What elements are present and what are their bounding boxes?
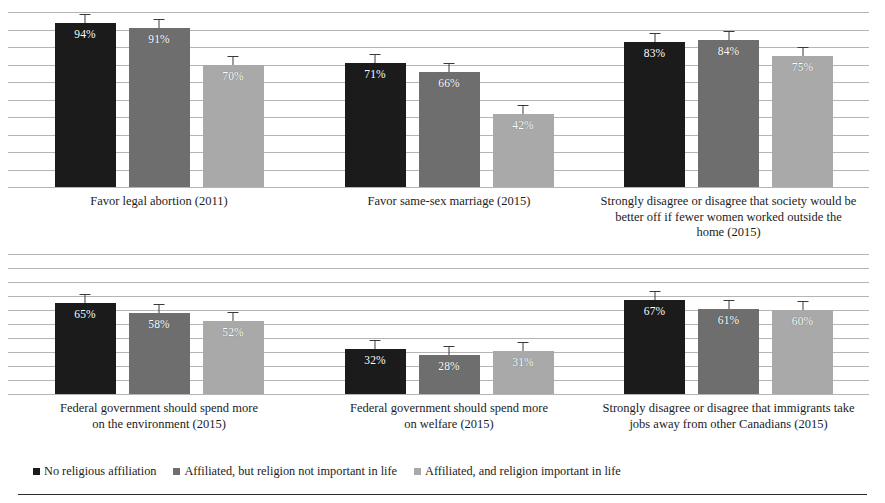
error-bar: [649, 291, 660, 300]
plot-area-spend-welfare: 32%28%31%: [310, 254, 588, 394]
gridline: [588, 394, 869, 395]
bar-slot: 66%: [412, 12, 486, 187]
bar: 71%: [345, 63, 406, 187]
legend-label: Affiliated, but religion not important i…: [184, 464, 397, 478]
legend-item: Affiliated, but religion not important i…: [173, 464, 397, 478]
bar-value-label: 32%: [345, 354, 406, 366]
error-bar-stem: [159, 19, 160, 28]
bar: 42%: [493, 114, 554, 188]
bar-group-same-sex-marriage: 71%66%42%: [310, 12, 588, 187]
error-bar: [444, 63, 455, 72]
legend-item: No religious affiliation: [33, 464, 156, 478]
bar-slot: 75%: [766, 12, 840, 187]
error-bar: [228, 312, 239, 321]
bar: 94%: [55, 23, 116, 188]
bar-slot: 28%: [412, 254, 486, 394]
bar: 28%: [419, 355, 480, 394]
error-bar: [797, 47, 808, 56]
panel-same-sex-marriage: 71%66%42% Favor same-sex marriage (2015): [310, 12, 588, 246]
panel-row-bottom: 65%58%52% Federal government should spen…: [0, 246, 885, 458]
footnote-text: [18, 496, 867, 503]
bar-slot: 84%: [692, 12, 766, 187]
bar-value-label: 28%: [419, 360, 480, 372]
plot-area-immigrants-jobs: 67%61%60%: [588, 254, 869, 394]
legend-item: Affiliated, and religion important in li…: [414, 464, 621, 478]
error-bar-stem: [233, 56, 234, 65]
bar: 60%: [772, 310, 833, 394]
bar-slot: 32%: [338, 254, 412, 394]
bar-value-label: 42%: [493, 119, 554, 131]
bar-value-label: 58%: [129, 318, 190, 330]
bar: 31%: [493, 351, 554, 394]
bar: 91%: [129, 28, 190, 187]
error-bar: [370, 54, 381, 63]
bar-slot: 31%: [486, 254, 560, 394]
bar-group-women-working-outside-home: 83%84%75%: [588, 12, 869, 187]
bar-value-label: 91%: [129, 33, 190, 45]
bar-value-label: 75%: [772, 61, 833, 73]
gridline: [310, 394, 588, 395]
error-bar: [723, 31, 734, 40]
bar-slot: 60%: [766, 254, 840, 394]
bar-value-label: 66%: [419, 77, 480, 89]
plot-area-spend-environment: 65%58%52%: [8, 254, 310, 394]
gridline: [8, 187, 310, 188]
bar-slot: 58%: [122, 254, 196, 394]
panel-caption-women-working-outside-home: Strongly disagree or disagree that socie…: [588, 187, 869, 241]
error-bar: [518, 105, 529, 114]
bar: 70%: [203, 65, 264, 188]
bar: 75%: [772, 56, 833, 187]
error-bar: [797, 301, 808, 310]
error-bar-stem: [159, 304, 160, 313]
plot-area-same-sex-marriage: 71%66%42%: [310, 12, 588, 187]
bar-slot: 83%: [618, 12, 692, 187]
bar-slot: 42%: [486, 12, 560, 187]
error-bar: [154, 304, 165, 313]
bar: 67%: [624, 300, 685, 394]
panel-caption-abortion: Favor legal abortion (2011): [8, 187, 310, 210]
bar-group-abortion: 94%91%70%: [8, 12, 310, 187]
plot-area-women-working-outside-home: 83%84%75%: [588, 12, 869, 187]
bar: 52%: [203, 321, 264, 394]
bar: 32%: [345, 349, 406, 394]
bar: 66%: [419, 72, 480, 188]
bar-slot: 67%: [618, 254, 692, 394]
gridline: [588, 187, 869, 188]
error-bar-stem: [375, 340, 376, 349]
error-bar: [444, 346, 455, 355]
error-bar-stem: [85, 14, 86, 23]
bar: 65%: [55, 303, 116, 394]
legend-swatch: [414, 468, 421, 475]
panel-immigrants-jobs: 67%61%60% Strongly disagree or disagree …: [588, 254, 869, 458]
error-bar-stem: [85, 294, 86, 303]
error-bar: [649, 33, 660, 42]
bar-slot: 71%: [338, 12, 412, 187]
legend-label: No religious affiliation: [44, 464, 156, 478]
bar-value-label: 60%: [772, 315, 833, 327]
bar-value-label: 67%: [624, 305, 685, 317]
panel-abortion: 94%91%70% Favor legal abortion (2011): [8, 12, 310, 246]
bar-value-label: 94%: [55, 28, 116, 40]
error-bar-stem: [728, 300, 729, 309]
figure-grouped-bar-charts: 94%91%70% Favor legal abortion (2011) 71…: [0, 0, 885, 503]
legend-swatch: [173, 468, 180, 475]
error-bar-stem: [654, 291, 655, 300]
gridline: [310, 187, 588, 188]
error-bar-stem: [802, 301, 803, 310]
error-bar: [228, 56, 239, 65]
plot-area-abortion: 94%91%70%: [8, 12, 310, 187]
footnote-divider: [18, 494, 867, 495]
error-bar-stem: [523, 342, 524, 351]
panel-women-working-outside-home: 83%84%75% Strongly disagree or disagree …: [588, 12, 869, 246]
bar-group-spend-welfare: 32%28%31%: [310, 254, 588, 394]
bar-value-label: 71%: [345, 68, 406, 80]
bar-value-label: 84%: [698, 45, 759, 57]
bar: 83%: [624, 42, 685, 187]
panel-spend-welfare: 32%28%31% Federal government should spen…: [310, 254, 588, 458]
panel-caption-immigrants-jobs: Strongly disagree or disagree that immig…: [588, 394, 869, 432]
error-bar: [154, 19, 165, 28]
panel-row-top: 94%91%70% Favor legal abortion (2011) 71…: [0, 0, 885, 246]
bar-slot: 94%: [48, 12, 122, 187]
error-bar-stem: [233, 312, 234, 321]
error-bar-stem: [449, 63, 450, 72]
